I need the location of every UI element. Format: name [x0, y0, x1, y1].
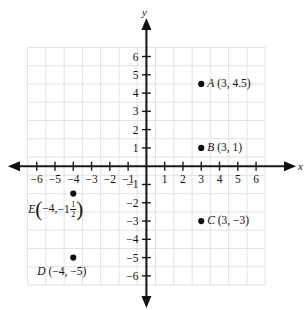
- point-marker-e: [70, 191, 76, 197]
- point-coordinates: (3, 4.5): [214, 77, 250, 89]
- x-tick-label: 2: [180, 173, 186, 185]
- y-axis-arrow-up: [141, 18, 151, 30]
- y-tick-label: −6: [126, 270, 138, 282]
- y-tick-label: 6: [133, 51, 139, 63]
- point-name: C: [207, 214, 215, 226]
- x-tick-label: −3: [85, 173, 97, 185]
- point-label-a: A (3, 4.5): [207, 78, 250, 90]
- x-tick-label: −2: [104, 173, 116, 185]
- point-label-c: C (3, −3): [207, 215, 249, 227]
- x-axis-arrow-left: [8, 161, 20, 171]
- y-axis-label: y: [141, 6, 147, 18]
- point-marker-d: [70, 255, 76, 261]
- y-tick-label: −3: [126, 215, 138, 227]
- point-coordinates: (3, 1): [214, 141, 242, 153]
- point-label-d: D (−4, −5): [37, 266, 86, 278]
- point-label-e: E(−4,−112): [28, 201, 83, 219]
- y-tick-label: −1: [126, 178, 138, 190]
- x-axis-arrow-right: [284, 161, 296, 171]
- y-axis-arrow-down: [141, 296, 151, 308]
- mixed-number: −112: [57, 201, 76, 219]
- numerator: 1: [70, 201, 76, 209]
- x-tick-label: 6: [253, 173, 259, 185]
- x-coordinate: −4,: [42, 202, 57, 214]
- y-tick-label: −4: [126, 233, 138, 245]
- point-marker-a: [198, 81, 204, 87]
- coordinate-plane: −6−5−4−3−2−1123456654321−1−2−3−4−5−6 x y: [0, 0, 308, 310]
- point-coordinates: (−4, −5): [46, 265, 87, 277]
- x-tick-label: −4: [67, 173, 79, 185]
- point-marker-b: [198, 145, 204, 151]
- y-tick-label: 1: [133, 142, 139, 154]
- y-tick-label: −5: [126, 252, 138, 264]
- y-tick-label: 2: [133, 124, 139, 136]
- point-name: D: [37, 265, 45, 277]
- y-tick-label: 5: [133, 69, 139, 81]
- point-coordinates: (3, −3): [215, 214, 249, 226]
- y-tick-label: 3: [133, 105, 139, 117]
- y-tick-label: −2: [126, 197, 138, 209]
- whole-part: −1: [57, 202, 69, 214]
- x-tick-label: 5: [235, 173, 241, 185]
- point-label-b: B (3, 1): [207, 142, 242, 154]
- close-paren: ): [76, 201, 83, 217]
- x-axis-label: x: [297, 160, 303, 172]
- x-tick-label: 4: [217, 173, 223, 185]
- x-tick-label: 3: [198, 173, 204, 185]
- x-tick-label: −6: [31, 173, 43, 185]
- fraction: 12: [70, 201, 76, 219]
- y-tick-label: 4: [133, 87, 139, 99]
- x-tick-label: 1: [162, 173, 168, 185]
- denominator: 2: [70, 211, 76, 219]
- point-marker-c: [198, 218, 204, 224]
- x-tick-label: −5: [49, 173, 61, 185]
- point-coordinates: (−4,−112): [35, 202, 83, 214]
